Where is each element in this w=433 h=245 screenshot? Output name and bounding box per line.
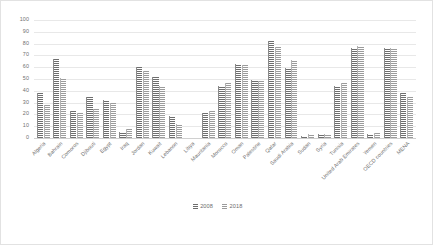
bar-2018[interactable] — [341, 83, 347, 138]
bar-group[interactable] — [52, 20, 69, 138]
bar-2018[interactable] — [275, 47, 281, 138]
bar-2018[interactable] — [44, 105, 50, 138]
bar-group[interactable] — [332, 20, 349, 138]
bar-2018[interactable] — [242, 65, 248, 138]
y-tick-label-40: 40 — [23, 88, 29, 93]
x-axis-label: Algeria — [31, 141, 47, 157]
bar-2008[interactable] — [251, 80, 257, 138]
legend-label: 2018 — [230, 204, 243, 210]
bar-group[interactable] — [118, 20, 135, 138]
bar-2018[interactable] — [308, 134, 314, 138]
legend-item-2008[interactable]: 2008 — [193, 204, 213, 210]
bar-group[interactable] — [68, 20, 85, 138]
bar-group[interactable] — [299, 20, 316, 138]
bar-2008[interactable] — [70, 111, 76, 138]
bar-group[interactable] — [382, 20, 399, 138]
bar-2008[interactable] — [334, 86, 340, 138]
bar-2008[interactable] — [301, 136, 307, 138]
bar-2008[interactable] — [119, 132, 125, 138]
bar-2008[interactable] — [384, 48, 390, 138]
bar-2008[interactable] — [318, 134, 324, 138]
x-label-slot: Egypt — [101, 139, 118, 201]
bar-2008[interactable] — [351, 48, 357, 138]
bar-2018[interactable] — [126, 129, 132, 138]
bar-group[interactable] — [217, 20, 234, 138]
y-tick-label-30: 30 — [23, 100, 29, 105]
bar-group[interactable] — [35, 20, 52, 138]
bar-2018[interactable] — [407, 97, 413, 138]
bar-group[interactable] — [85, 20, 102, 138]
x-label-slot: Oman — [233, 139, 250, 201]
bar-2018[interactable] — [209, 111, 215, 138]
bar-2008[interactable] — [268, 41, 274, 138]
x-label-slot: Jordan — [134, 139, 151, 201]
bar-group[interactable] — [184, 20, 201, 138]
bar-group[interactable] — [250, 20, 267, 138]
bar-group[interactable] — [283, 20, 300, 138]
bar-2008[interactable] — [136, 67, 142, 138]
x-label-slot: OECD countries — [382, 139, 399, 201]
bar-2008[interactable] — [285, 68, 291, 138]
bar-2008[interactable] — [235, 64, 241, 138]
x-axis-label: MENA — [396, 141, 411, 156]
bar-2008[interactable] — [37, 93, 43, 138]
bar-group[interactable] — [101, 20, 118, 138]
bar-2018[interactable] — [258, 81, 264, 138]
bar-2008[interactable] — [103, 100, 109, 138]
bar-2008[interactable] — [169, 116, 175, 138]
bar-group[interactable] — [365, 20, 382, 138]
legend-item-2018[interactable]: 2018 — [222, 204, 242, 210]
y-tick-label-0: 0 — [26, 135, 29, 140]
bar-2018[interactable] — [357, 46, 363, 138]
bar-group[interactable] — [233, 20, 250, 138]
x-axis-label: Qatar — [265, 141, 278, 154]
y-tick-label-70: 70 — [23, 53, 29, 58]
x-label-slot: Lebanon — [167, 139, 184, 201]
y-tick-label-80: 80 — [23, 41, 29, 46]
bar-2018[interactable] — [159, 86, 165, 138]
bar-2008[interactable] — [202, 113, 208, 138]
bar-2008[interactable] — [53, 59, 59, 138]
x-axis-label: Sudan — [296, 141, 311, 156]
y-tick-label-60: 60 — [23, 64, 29, 69]
x-label-slot: MENA — [398, 139, 415, 201]
bar-2008[interactable] — [367, 134, 373, 138]
bar-2018[interactable] — [324, 134, 330, 138]
bar-2018[interactable] — [374, 133, 380, 138]
bar-series-layer — [34, 20, 416, 138]
x-axis-label: Egypt — [100, 141, 114, 155]
bar-2018[interactable] — [390, 48, 396, 138]
bar-group[interactable] — [316, 20, 333, 138]
y-tick-label-20: 20 — [23, 112, 29, 117]
y-tick-label-90: 90 — [23, 29, 29, 34]
bar-2018[interactable] — [60, 78, 66, 138]
bar-2018[interactable] — [143, 71, 149, 138]
bar-group[interactable] — [349, 20, 366, 138]
y-tick-label-10: 10 — [23, 123, 29, 128]
bar-2018[interactable] — [291, 60, 297, 138]
bar-2008[interactable] — [152, 77, 158, 138]
bar-group[interactable] — [151, 20, 168, 138]
x-label-slot: Mauritania — [200, 139, 217, 201]
bar-2018[interactable] — [93, 109, 99, 139]
bar-group[interactable] — [266, 20, 283, 138]
bar-2018[interactable] — [110, 103, 116, 138]
bar-2008[interactable] — [218, 86, 224, 138]
bar-2018[interactable] — [77, 113, 83, 138]
bar-group[interactable] — [398, 20, 415, 138]
y-tick-label-100: 100 — [20, 17, 29, 22]
x-axis-label: Iraq — [119, 141, 129, 151]
bar-2008[interactable] — [86, 97, 92, 138]
bar-group[interactable] — [134, 20, 151, 138]
bar-group[interactable] — [167, 20, 184, 138]
y-axis: 1009080706050403020100 — [1, 20, 32, 138]
bar-2018[interactable] — [225, 83, 231, 138]
legend-label: 2008 — [200, 204, 213, 210]
bar-group[interactable] — [200, 20, 217, 138]
legend-swatch-icon — [222, 204, 227, 209]
bar-2008[interactable] — [400, 93, 406, 138]
x-label-slot: Sudan — [299, 139, 316, 201]
bar-2018[interactable] — [176, 124, 182, 138]
chart-container: 1009080706050403020100 AlgeriaBahrainCom… — [0, 0, 433, 245]
x-label-slot: United Arab Emirates — [349, 139, 366, 201]
